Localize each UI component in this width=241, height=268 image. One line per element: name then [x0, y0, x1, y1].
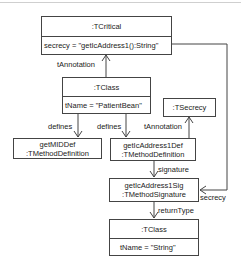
edge-label-secrecy: secrecy: [200, 193, 226, 202]
node-tclass-string[interactable]: :TClass tName = "String": [109, 219, 199, 256]
node-title: :TSecrecy: [164, 99, 215, 116]
node-type: :TMethodSignature: [122, 190, 186, 199]
node-title: :TClass: [63, 78, 150, 96]
node-attribute: secrecy = "getIcAddress1():String": [42, 36, 171, 54]
edge-label-defines-1: defines: [48, 122, 72, 131]
edge-label-tannotation-1: tAnnotation: [57, 60, 95, 69]
node-tcritical[interactable]: :TCritical secrecy = "getIcAddress1():St…: [41, 16, 172, 55]
node-title: :TClass: [110, 220, 198, 238]
edge-label-returntype: returnType: [158, 206, 194, 215]
edge-label-tannotation-2: tAnnotation: [144, 122, 182, 131]
node-name: getMIDDef: [40, 140, 76, 149]
node-geticaddress1sig[interactable]: getIcAddress1Sig :TMethodSignature: [109, 178, 199, 202]
node-attribute: tName = "String": [110, 238, 198, 255]
edge-label-signature: signature: [158, 165, 189, 174]
node-tsecrecy[interactable]: :TSecrecy: [163, 98, 216, 117]
node-title: :TCritical: [42, 17, 171, 36]
node-tclass-patientbean[interactable]: :TClass tName = "PatientBean": [62, 77, 151, 114]
node-name: getIcAddress1Def: [123, 141, 183, 150]
node-type: :TMethodDefinition: [122, 150, 185, 159]
node-name: getIcAddress1Sig: [125, 181, 184, 190]
node-geticaddress1def[interactable]: getIcAddress1Def :TMethodDefinition: [110, 138, 196, 161]
node-type: :TMethodDefinition: [26, 149, 89, 158]
edge-label-defines-2: defines: [97, 122, 121, 131]
node-getmiddef[interactable]: getMIDDef :TMethodDefinition: [13, 138, 102, 159]
node-attribute: tName = "PatientBean": [63, 96, 150, 113]
